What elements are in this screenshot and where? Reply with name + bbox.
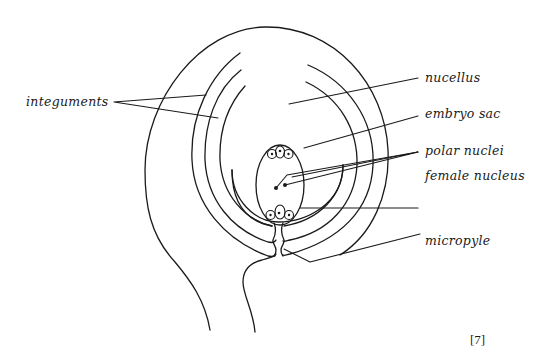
micropyle-channel bbox=[273, 223, 276, 256]
nucellus-lower-arc bbox=[232, 165, 343, 222]
label-micropyle: micropyle bbox=[425, 233, 491, 248]
marks-indicator: [7] bbox=[470, 332, 485, 347]
label-polar-nuclei: polar nuclei bbox=[425, 143, 504, 158]
nucellus-body bbox=[232, 165, 343, 226]
label-female-nucleus: female nucleus bbox=[424, 168, 525, 183]
funicle-inner-edge bbox=[243, 256, 275, 332]
label-integuments: integuments bbox=[26, 94, 109, 109]
label-embryo-sac: embryo sac bbox=[425, 106, 501, 121]
outer-integument-right bbox=[283, 65, 373, 255]
egg-apparatus bbox=[266, 205, 294, 220]
label-nucellus: nucellus bbox=[425, 70, 480, 85]
ovule-diagram: integuments nucellus embryo sac polar nu… bbox=[0, 0, 556, 355]
micropyle-channel-right bbox=[281, 223, 284, 256]
ovule-outer-wall bbox=[145, 27, 388, 330]
